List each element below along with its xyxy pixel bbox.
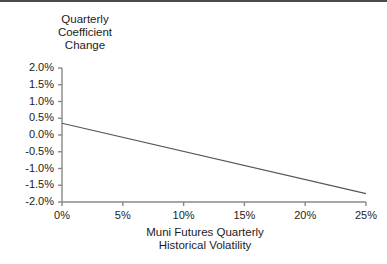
x-axis-tick-label: 0% [40,209,84,221]
y-axis-tick-label: -2.0% [10,195,54,207]
y-axis-tick-label: 1.0% [10,95,54,107]
chart-container: QuarterlyCoefficientChange Muni Futures … [0,2,387,264]
x-axis-tick-label: 5% [101,209,145,221]
x-axis-tick-label: 25% [344,209,387,221]
x-axis-tick-label: 15% [222,209,266,221]
y-axis-tick-label: 0.0% [10,128,54,140]
x-axis-tick-label: 20% [283,209,327,221]
y-axis-tick-label: -1.5% [10,178,54,190]
y-axis-tick-label: 1.5% [10,78,54,90]
trend-line [62,123,366,193]
y-axis-tick-label: 0.5% [10,111,54,123]
y-axis-tick-label: -1.0% [10,162,54,174]
y-axis-tick-label: 2.0% [10,61,54,73]
x-axis-tick-label: 10% [162,209,206,221]
y-axis-tick-label: -0.5% [10,145,54,157]
plot-area [0,2,387,264]
